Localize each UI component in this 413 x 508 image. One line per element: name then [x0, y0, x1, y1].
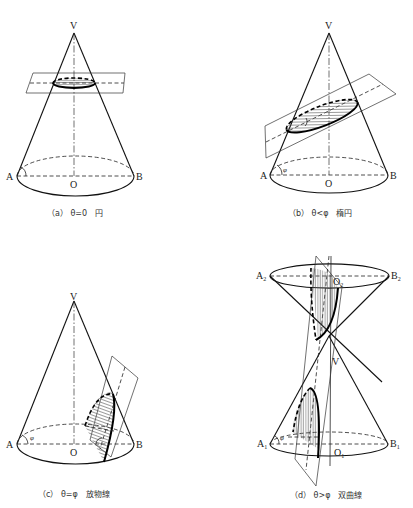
caption-a: （a） θ=0 円 — [47, 209, 103, 218]
label-O2: O2 — [333, 276, 343, 288]
label-O: O — [70, 179, 77, 190]
cone-generator-left — [270, 33, 329, 175]
label-O: O — [325, 178, 332, 189]
lower-base-front-arc — [270, 444, 388, 456]
label-O: O — [70, 447, 77, 458]
cone-generator-left — [17, 301, 74, 444]
panel-d-hyperbola: V A2 B2 O2 A1 B1 O1 φ （d） θ>φ 双曲線 — [256, 256, 401, 500]
caption-d: （d） θ>φ 双曲線 — [290, 490, 363, 500]
label-A: A — [6, 439, 14, 450]
angle-phi-arc — [277, 165, 282, 175]
label-A1: A1 — [257, 438, 267, 450]
label-phi: φ — [280, 434, 284, 442]
label-V: V — [332, 356, 340, 367]
angle-phi-arc — [275, 436, 279, 444]
angle-phi-arc — [22, 435, 28, 444]
label-B: B — [390, 170, 397, 181]
label-B: B — [136, 439, 143, 450]
label-B: B — [136, 171, 143, 182]
section-hatch — [85, 392, 114, 462]
label-A: A — [260, 170, 268, 181]
label-V: V — [70, 20, 78, 31]
panel-c-parabola: V A B O φ （c） θ=φ 放物線 — [6, 291, 143, 499]
label-V: V — [70, 291, 78, 302]
label-O1: O1 — [334, 447, 344, 459]
label-A: A — [6, 171, 14, 182]
panel-a-circle: V A B O （a） θ=0 円 — [6, 20, 143, 218]
label-B2: B2 — [391, 270, 401, 282]
lower-base-back-arc — [270, 432, 388, 444]
label-V: V — [325, 20, 333, 31]
label-B1: B1 — [390, 438, 400, 450]
generator-lower-right — [329, 336, 388, 444]
caption-c: （c） θ=φ 放物線 — [38, 489, 110, 499]
cone-generator-right — [74, 33, 134, 176]
base-back-arc — [17, 156, 134, 176]
label-phi: φ — [283, 166, 287, 174]
label-A2: A2 — [256, 270, 266, 282]
cone-generator-left — [17, 33, 74, 176]
conic-sections-figure: V A B O （a） θ=0 円 V A B O φ （b） θ<φ 楕円 — [0, 0, 413, 508]
label-phi: φ — [30, 434, 34, 442]
panel-b-ellipse: V A B O φ （b） θ<φ 楕円 — [260, 20, 397, 218]
caption-b: （b） θ<φ 楕円 — [288, 208, 353, 218]
